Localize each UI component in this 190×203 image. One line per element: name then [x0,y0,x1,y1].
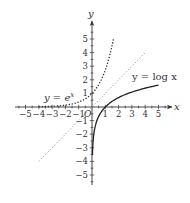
y-axis-label: y [87,8,94,19]
y-tick-label: −5 [75,170,88,180]
x-axis-label: x [174,101,180,112]
y-tick-label: −3 [75,143,88,153]
y-tick-label: 2 [83,75,88,85]
exp-label-sup: x [70,91,74,99]
x-tick-label: −5 [19,109,32,119]
x-tick-label: 2 [116,109,121,119]
exp-label-text: y = e [43,92,70,103]
x-tick-label: 3 [129,109,134,119]
x-tick-label: −3 [46,109,59,119]
exp-curve-label: y = ex [43,91,74,103]
origin-label: O [84,109,92,119]
x-tick-label: −2 [59,109,72,119]
y-tick-label: −2 [75,129,88,139]
chart: −5−4−3−2−112345−5−4−3−2−112345 x y O y =… [0,0,190,203]
y-tick-label: 1 [83,88,88,98]
y-tick-label: 3 [83,61,88,71]
x-tick-label: 4 [142,109,147,119]
x-tick-label: 5 [156,109,161,119]
log-curve-label: y = log x [131,71,177,82]
y-tick-label: 5 [83,34,88,44]
y-tick-label: −4 [75,156,88,166]
log-curve [92,85,158,155]
x-tick-label: 1 [103,109,108,119]
x-tick-label: −4 [33,109,46,119]
y-tick-label: 4 [83,48,88,58]
